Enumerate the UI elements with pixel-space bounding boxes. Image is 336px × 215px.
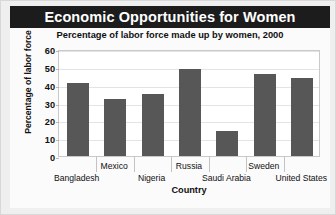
y-tick-label: 60: [45, 46, 55, 56]
x-tick-label: Saudi Arabia: [202, 173, 251, 183]
chart-subtitle: Percentage of labor force made up by wom…: [10, 30, 330, 40]
y-tick-label: 30: [45, 100, 55, 110]
x-tick-label: Nigeria: [138, 173, 165, 183]
bar: [179, 69, 201, 156]
x-tick-mark: [134, 156, 135, 172]
y-axis-title: Percentage of labor force: [23, 24, 33, 140]
x-tick-label: Sweden: [248, 161, 279, 171]
x-tick-mark: [246, 156, 247, 172]
chart-title: Economic Opportunities for Women: [44, 9, 295, 25]
chart-title-band: Economic Opportunities for Women: [10, 6, 330, 28]
x-tick-label: Russia: [176, 161, 202, 171]
y-tick-label: 20: [45, 117, 55, 127]
chart-figure: Economic Opportunities for Women Percent…: [0, 0, 336, 215]
bar: [67, 83, 89, 156]
x-tick-label: Bangladesh: [54, 173, 99, 183]
bar: [254, 74, 276, 156]
y-tick-mark: [56, 158, 59, 159]
y-tick-label: 0: [50, 153, 55, 163]
x-tick-mark: [171, 156, 172, 172]
y-tick-label: 50: [45, 64, 55, 74]
x-tick-label: United States: [275, 173, 327, 183]
x-axis-title: Country: [58, 185, 320, 195]
x-tick-mark: [96, 156, 97, 172]
y-tick-label: 10: [45, 135, 55, 145]
x-tick-mark: [284, 156, 285, 172]
bar: [291, 78, 313, 156]
x-tick-label: Mexico: [101, 161, 128, 171]
bar: [142, 94, 164, 156]
bar: [216, 131, 238, 156]
bar-series: [59, 51, 319, 156]
x-tick-mark: [209, 156, 210, 172]
plot-area: 0102030405060: [58, 50, 320, 157]
bar: [104, 99, 126, 156]
y-tick-label: 40: [45, 82, 55, 92]
chart-plate: Percentage of labor force made up by wom…: [10, 28, 330, 208]
